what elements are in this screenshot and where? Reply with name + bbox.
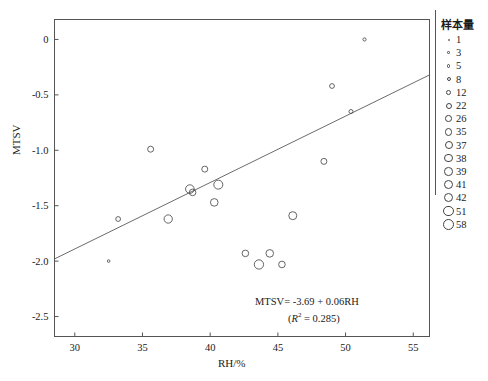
y-tick-label: -1.0 (32, 145, 49, 156)
scatter-point (116, 217, 121, 222)
regression-equation: MTSV= -3.69 + 0.06RH (255, 296, 359, 307)
x-tick-label: 40 (205, 342, 216, 353)
legend-item-label: 38 (456, 152, 467, 165)
r-squared-annotation: (R2 = 0.285) (288, 311, 340, 324)
scatter-point (242, 250, 249, 257)
scatter-point (266, 250, 274, 258)
legend-marker-cell (441, 219, 456, 230)
legend-item-label: 12 (456, 86, 467, 99)
legend-circle-icon (443, 219, 454, 230)
legend-marker-cell (441, 180, 456, 189)
x-tick-label: 35 (137, 342, 148, 353)
r-squared-value: = 0.285) (301, 313, 339, 324)
y-tick-label: -1.5 (32, 200, 49, 211)
legend-marker-cell (441, 90, 456, 95)
chart-canvas: 3035404550550-0.5-1.0-1.5-2.0-2.5 (0, 0, 488, 381)
x-tick-label: 50 (340, 342, 351, 353)
legend-divider (435, 10, 436, 195)
legend-item-label: 42 (456, 191, 467, 204)
plot-frame (55, 20, 430, 337)
legend-circle-icon (444, 180, 453, 189)
legend-circle-icon (447, 64, 450, 67)
legend-item-label: 3 (456, 46, 461, 59)
legend-circle-icon (448, 39, 450, 41)
scatter-point (254, 260, 263, 269)
legend-item: 58 (441, 218, 488, 231)
legend-item: 42 (441, 191, 488, 204)
x-tick-label: 30 (70, 342, 81, 353)
y-tick-label: -2.5 (32, 311, 49, 322)
legend-item-label: 5 (456, 59, 461, 72)
legend-circle-icon (445, 128, 453, 136)
legend-circle-icon (447, 51, 450, 54)
x-tick-label: 45 (273, 342, 284, 353)
legend-item: 39 (441, 165, 488, 178)
legend-item-label: 1 (456, 33, 461, 46)
legend-item-label: 51 (456, 205, 467, 218)
scatter-point (330, 84, 335, 89)
legend-marker-cell (441, 51, 456, 54)
legend-item-label: 22 (456, 99, 467, 112)
scatter-point (349, 109, 353, 113)
legend-item-label: 26 (456, 112, 467, 125)
legend-circle-icon (445, 115, 452, 122)
legend-item-label: 41 (456, 178, 467, 191)
y-tick-label: -2.0 (32, 256, 49, 267)
data-points (107, 38, 366, 269)
legend-marker-cell (441, 154, 456, 162)
legend-item-label: 37 (456, 139, 467, 152)
y-tick-label: -0.5 (32, 89, 49, 100)
axis-ticks: 3035404550550-0.5-1.0-1.5-2.0-2.5 (32, 34, 419, 352)
legend-marker-cell (441, 103, 456, 109)
legend-item-label: 35 (456, 125, 467, 138)
legend-item: 51 (441, 204, 488, 217)
scatter-plot-figure: 3035404550550-0.5-1.0-1.5-2.0-2.5 MTSV R… (0, 0, 488, 381)
legend-circle-icon (444, 193, 453, 202)
regression-line (55, 75, 430, 259)
x-tick-label: 55 (408, 342, 419, 353)
legend-marker-cell (441, 128, 456, 136)
legend-item: 3 (441, 46, 488, 59)
legend-circle-icon (447, 77, 451, 81)
legend-items-list: 13581222263537383941425158 (441, 33, 488, 231)
legend-title: 样本量 (441, 16, 474, 32)
legend-item: 1 (441, 33, 488, 46)
legend-item: 41 (441, 178, 488, 191)
legend-circle-icon (444, 154, 452, 162)
scatter-point (363, 38, 366, 41)
legend-marker-cell (441, 39, 456, 41)
legend-item: 5 (441, 59, 488, 72)
legend-circle-icon (446, 103, 452, 109)
legend-item-label: 39 (456, 165, 467, 178)
legend-item-label: 8 (456, 73, 461, 86)
scatter-point (289, 212, 297, 220)
legend-item: 26 (441, 112, 488, 125)
legend-item: 38 (441, 152, 488, 165)
scatter-point (202, 166, 208, 172)
legend-item: 22 (441, 99, 488, 112)
y-tick-label: 0 (43, 34, 48, 45)
legend-item-label: 58 (456, 218, 467, 231)
legend-circle-icon (443, 206, 453, 216)
scatter-point (279, 261, 286, 268)
legend-marker-cell (441, 64, 456, 67)
legend-circle-icon (444, 167, 453, 176)
scatter-point (107, 260, 110, 263)
y-axis-title: MTSV (10, 124, 22, 155)
legend-circle-icon (446, 90, 451, 95)
legend-marker-cell (441, 77, 456, 81)
legend-item: 35 (441, 125, 488, 138)
scatter-point (210, 199, 218, 207)
scatter-point (321, 158, 327, 164)
legend-marker-cell (441, 206, 456, 216)
legend-marker-cell (441, 167, 456, 176)
legend-item: 8 (441, 73, 488, 86)
scatter-point (214, 180, 223, 189)
legend-circle-icon (445, 141, 453, 149)
x-axis-title: RH/% (218, 357, 246, 369)
legend-item: 37 (441, 139, 488, 152)
scatter-point (164, 215, 172, 223)
legend-marker-cell (441, 115, 456, 122)
scatter-point (148, 146, 154, 152)
legend-item: 12 (441, 86, 488, 99)
